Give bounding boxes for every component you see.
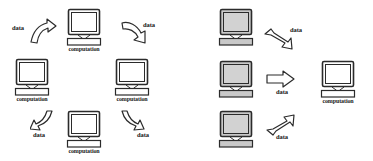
data-flow-from-middle — [266, 70, 296, 88]
arrow-right-icon — [266, 70, 296, 88]
panel-move-data-to-computation: computation data data data — [186, 0, 373, 161]
data-flow-label: data — [276, 88, 288, 95]
computer-node-left: computation — [12, 58, 52, 96]
node-label: computation — [116, 96, 147, 103]
panel-move-computation-to-data: computation computation computation — [0, 0, 187, 161]
computer-node-source-top — [216, 8, 256, 46]
data-flow-label: data — [12, 24, 24, 31]
computer-icon — [64, 8, 104, 46]
node-label: computation — [68, 46, 99, 53]
computer-node-source-middle — [216, 60, 256, 98]
computer-node-right: computation — [112, 58, 152, 96]
computer-icon — [318, 60, 358, 98]
computer-icon — [12, 58, 52, 96]
diagram-canvas: computation computation computation — [0, 0, 373, 161]
computer-icon — [64, 110, 104, 148]
data-flow-label: data — [33, 131, 45, 138]
computer-node-top: computation — [64, 8, 104, 46]
data-flow-label: data — [137, 131, 149, 138]
data-flow-top-left — [28, 18, 58, 44]
computer-icon — [216, 8, 256, 46]
node-label: computation — [68, 148, 99, 155]
node-label: computation — [322, 98, 353, 105]
computer-icon — [112, 58, 152, 96]
data-flow-label: data — [143, 21, 155, 28]
node-label: computation — [16, 96, 47, 103]
computer-node-bottom: computation — [64, 110, 104, 148]
computer-node-source-bottom — [216, 110, 256, 148]
computer-icon — [216, 110, 256, 148]
computer-icon — [216, 60, 256, 98]
data-flow-label: data — [290, 26, 302, 33]
data-flow-label: data — [276, 133, 288, 140]
computer-node-target: computation — [318, 60, 358, 98]
arrow-up-right-icon — [28, 18, 58, 44]
